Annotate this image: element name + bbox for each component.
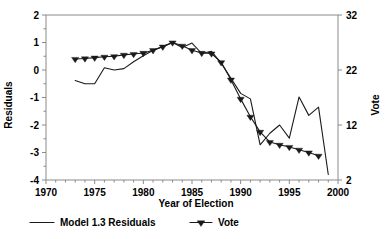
y-tick-label: 1 xyxy=(33,37,39,48)
x-tick-label: 1980 xyxy=(132,187,155,198)
x-tick-label: 2000 xyxy=(327,187,350,198)
y-tick-label: -3 xyxy=(30,147,39,158)
x-tick-label: 1970 xyxy=(35,187,58,198)
legend-label-vote: Vote xyxy=(218,217,239,228)
chart-figure: 1970197519801985199019952000 -4-3-2-1012… xyxy=(0,0,390,239)
y2-tick-label: 2 xyxy=(346,175,352,186)
x-axis-title: Year of Election xyxy=(158,198,233,209)
y2-tick-label: 32 xyxy=(346,10,358,21)
y2-tick-label: 22 xyxy=(346,65,358,76)
x-tick-label: 1995 xyxy=(278,187,301,198)
x-tick-label: 1985 xyxy=(181,187,204,198)
y-tick-label: -4 xyxy=(30,175,39,186)
residuals-vote-line-chart: 1970197519801985199019952000 -4-3-2-1012… xyxy=(0,0,390,239)
y2-tick-label: 12 xyxy=(346,120,358,131)
y-axis-right-title: Vote xyxy=(370,94,381,115)
y-tick-label: -1 xyxy=(30,92,39,103)
y-tick-label: -2 xyxy=(30,120,39,131)
x-tick-label: 1975 xyxy=(84,187,107,198)
y-tick-label: 0 xyxy=(33,65,39,76)
x-tick-label: 1990 xyxy=(230,187,253,198)
y-tick-label: 2 xyxy=(33,10,39,21)
y-axis-left-title: Residuals xyxy=(3,81,14,129)
legend-label-model-residuals: Model 1.3 Residuals xyxy=(60,217,156,228)
